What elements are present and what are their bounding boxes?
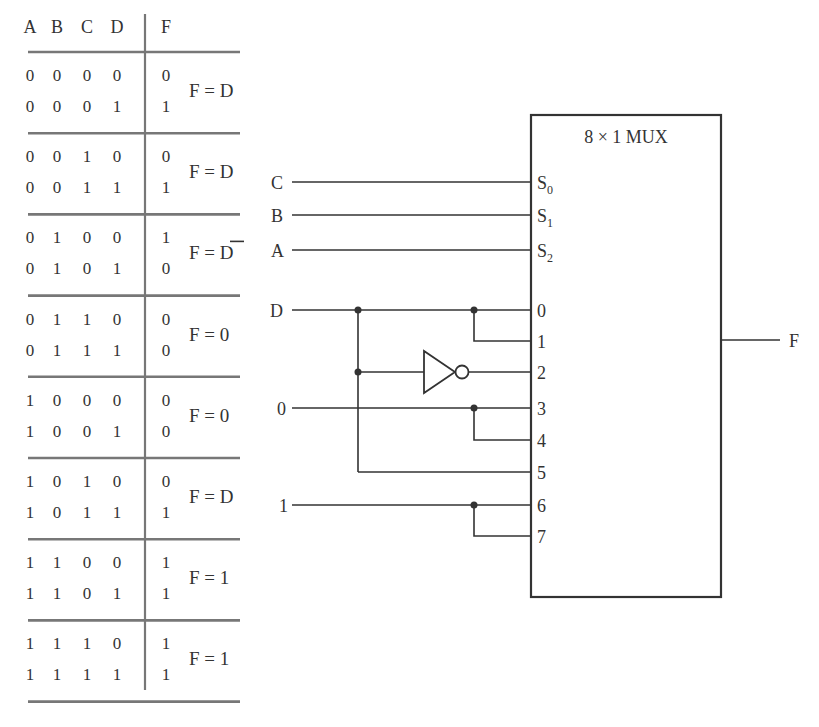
table-cell: 0: [26, 147, 35, 166]
truth-table-header: ABCDF: [24, 17, 172, 37]
table-row: 11001: [26, 553, 171, 572]
table-cell: 0: [53, 472, 62, 491]
table-cell: 0: [26, 259, 35, 278]
table-cell: 0: [162, 341, 171, 360]
table-row: 00000: [26, 66, 171, 85]
table-cell: 0: [53, 66, 62, 85]
table-cell: 1: [83, 147, 92, 166]
table-row: 00100: [26, 147, 171, 166]
wire-zero-to-pin4: [474, 408, 531, 440]
table-row: 10010: [26, 422, 171, 441]
table-cell: 1: [53, 341, 62, 360]
data-pin-label: 3: [537, 399, 546, 419]
table-cell: 1: [26, 422, 35, 441]
inverter-triangle-icon: [424, 351, 455, 393]
data-pin-labels: 01234567: [537, 301, 546, 547]
select-input-label: A: [271, 241, 284, 261]
data-pin-label: 4: [537, 431, 546, 451]
table-cell: 0: [113, 634, 122, 653]
table-cell: 1: [162, 584, 171, 603]
table-cell: 1: [113, 584, 122, 603]
source-label-zero: 0: [277, 399, 286, 419]
table-row: 01100: [26, 310, 171, 329]
source-label-one: 1: [279, 496, 288, 516]
table-cell: 1: [162, 634, 171, 653]
table-cell: 0: [83, 391, 92, 410]
junction-dot: [471, 502, 478, 509]
table-cell: 0: [113, 310, 122, 329]
header-d: D: [111, 17, 124, 37]
group-expression: F = 0: [189, 324, 229, 345]
junction-dot: [471, 405, 478, 412]
table-cell: 0: [53, 147, 62, 166]
header-c: C: [81, 17, 93, 37]
table-cell: 0: [162, 472, 171, 491]
table-row: 01010: [26, 259, 171, 278]
table-cell: 0: [26, 228, 35, 247]
table-cell: 1: [83, 665, 92, 684]
wiring: [292, 310, 780, 536]
table-row: 11111: [26, 665, 171, 684]
table-cell: 1: [113, 341, 122, 360]
table-row: 11011: [26, 584, 171, 603]
table-cell: 0: [83, 584, 92, 603]
table-cell: 1: [113, 422, 122, 441]
table-group: 1100111011F = 1: [26, 553, 230, 603]
table-cell: 1: [26, 584, 35, 603]
group-expression: F = 1: [189, 567, 229, 588]
table-cell: 0: [83, 259, 92, 278]
table-cell: 0: [53, 503, 62, 522]
junction-dot: [471, 307, 478, 314]
table-row: 00111: [26, 178, 171, 197]
table-cell: 1: [113, 97, 122, 116]
table-cell: 1: [113, 665, 122, 684]
table-cell: 1: [53, 310, 62, 329]
table-cell: 1: [26, 665, 35, 684]
table-group: 0110001110F = 0: [26, 310, 230, 360]
table-cell: 1: [26, 503, 35, 522]
table-cell: 0: [26, 341, 35, 360]
table-cell: 0: [113, 391, 122, 410]
group-expression: F = D: [189, 161, 234, 182]
table-cell: 0: [162, 66, 171, 85]
data-pin-label: 7: [537, 527, 546, 547]
table-cell: 1: [113, 178, 122, 197]
table-cell: 0: [26, 97, 35, 116]
group-expression: F = 1: [189, 648, 229, 669]
table-cell: 0: [53, 97, 62, 116]
table-row: 00011: [26, 97, 171, 116]
table-cell: 0: [26, 178, 35, 197]
table-row: 10000: [26, 391, 171, 410]
table-cell: 0: [113, 147, 122, 166]
table-cell: 0: [113, 553, 122, 572]
table-cell: 0: [162, 422, 171, 441]
table-cell: 0: [83, 422, 92, 441]
table-cell: 1: [53, 665, 62, 684]
data-pin-label: 5: [537, 463, 546, 483]
truth-table: ABCDF 0000000011F = D0010000111F = D0100…: [24, 14, 245, 702]
table-cell: 0: [53, 422, 62, 441]
wire-d-to-pin1: [474, 310, 531, 341]
header-b: B: [51, 17, 63, 37]
table-cell: 0: [83, 228, 92, 247]
select-input-label: C: [271, 173, 283, 193]
inverter-bubble-icon: [456, 366, 469, 379]
table-cell: 1: [26, 634, 35, 653]
table-cell: 1: [26, 391, 35, 410]
header-a: A: [24, 17, 37, 37]
table-cell: 1: [162, 178, 171, 197]
diagram-canvas: ABCDF 0000000011F = D0010000111F = D0100…: [0, 0, 819, 727]
mux-title: 8 × 1 MUX: [584, 127, 668, 147]
table-cell: 1: [53, 553, 62, 572]
header-f: F: [161, 17, 171, 37]
table-cell: 0: [83, 66, 92, 85]
table-row: 10100: [26, 472, 171, 491]
table-cell: 0: [162, 147, 171, 166]
table-cell: 0: [26, 66, 35, 85]
select-pin-label: S0: [537, 173, 553, 197]
table-row: 01001: [26, 228, 171, 247]
table-cell: 1: [113, 259, 122, 278]
table-row: 10111: [26, 503, 171, 522]
mux-box: [531, 115, 721, 597]
source-label-d: D: [270, 301, 283, 321]
